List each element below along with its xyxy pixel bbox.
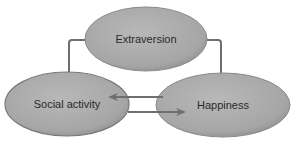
node-social-activity: Social activity: [5, 72, 129, 136]
node-happiness: Happiness: [156, 73, 290, 137]
diagram-canvas: Extraversion Social activity Happiness: [0, 0, 297, 150]
node-label-social-activity: Social activity: [34, 98, 101, 110]
node-extraversion: Extraversion: [85, 7, 207, 71]
node-label-happiness: Happiness: [197, 99, 249, 111]
node-label-extraversion: Extraversion: [115, 33, 176, 45]
